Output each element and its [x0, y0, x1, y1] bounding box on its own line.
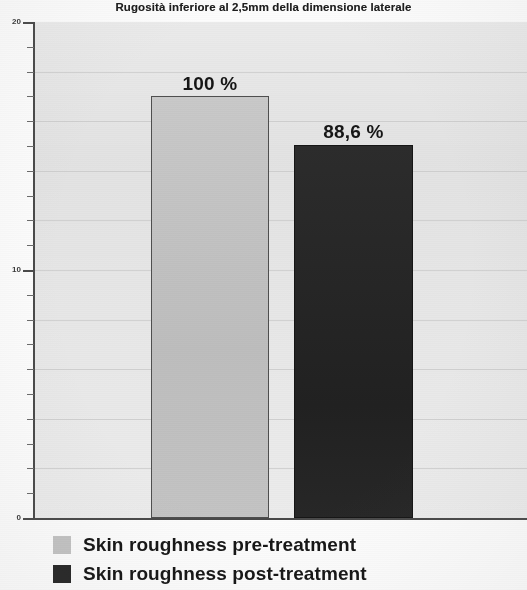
- y-tick-minor: [27, 96, 34, 97]
- y-tick-major-0: [23, 518, 34, 520]
- gridline: [35, 171, 527, 172]
- chart-canvas: Rugosità inferiore al 2,5mm della dimens…: [0, 0, 527, 590]
- y-tick-minor: [27, 220, 34, 221]
- gridline: [35, 320, 527, 321]
- y-axis-label-0: 0: [0, 514, 21, 522]
- y-tick-minor: [27, 245, 34, 246]
- gridline: [35, 369, 527, 370]
- legend: Skin roughness pre-treatment Skin roughn…: [53, 530, 527, 588]
- x-axis-line: [33, 518, 527, 520]
- y-tick-major-20: [23, 22, 34, 24]
- gridline: [35, 72, 527, 73]
- legend-label-post-treatment: Skin roughness post-treatment: [83, 563, 367, 585]
- y-tick-minor: [27, 419, 34, 420]
- plot-area: [35, 22, 527, 518]
- gridline: [35, 419, 527, 420]
- gridline: [35, 121, 527, 122]
- gridline: [35, 468, 527, 469]
- y-tick-minor: [27, 444, 34, 445]
- y-tick-major-10: [23, 270, 34, 272]
- gridline: [35, 270, 527, 271]
- y-tick-minor: [27, 344, 34, 345]
- chart-title: Rugosità inferiore al 2,5mm della dimens…: [0, 0, 527, 14]
- y-tick-minor: [27, 196, 34, 197]
- y-axis-label-10: 10: [0, 266, 21, 274]
- legend-item-post-treatment[interactable]: Skin roughness post-treatment: [53, 559, 527, 588]
- gridline: [35, 220, 527, 221]
- y-tick-minor: [27, 171, 34, 172]
- y-axis-label-20: 20: [0, 18, 21, 26]
- y-tick-minor: [27, 320, 34, 321]
- y-tick-minor: [27, 295, 34, 296]
- y-tick-minor: [27, 47, 34, 48]
- legend-swatch-post-treatment: [53, 565, 71, 583]
- y-tick-minor: [27, 394, 34, 395]
- bar-post-treatment[interactable]: [294, 145, 413, 519]
- y-tick-minor: [27, 468, 34, 469]
- y-tick-minor: [27, 369, 34, 370]
- y-tick-minor: [27, 493, 34, 494]
- y-tick-minor: [27, 72, 34, 73]
- bar-pre-treatment[interactable]: [151, 96, 269, 518]
- legend-label-pre-treatment: Skin roughness pre-treatment: [83, 534, 356, 556]
- bar-value-label-post: 88,6 %: [294, 121, 413, 143]
- y-tick-minor: [27, 146, 34, 147]
- legend-item-pre-treatment[interactable]: Skin roughness pre-treatment: [53, 530, 527, 559]
- y-tick-minor: [27, 121, 34, 122]
- legend-swatch-pre-treatment: [53, 536, 71, 554]
- bar-value-label-pre: 100 %: [151, 73, 269, 95]
